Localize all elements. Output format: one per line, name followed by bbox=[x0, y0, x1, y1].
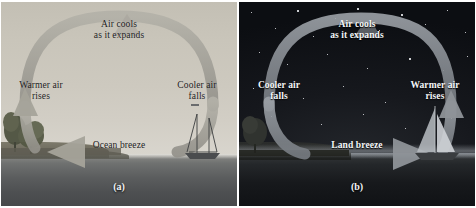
panel-night: Air cools as it expands Cooler air falls… bbox=[239, 2, 475, 206]
day-label-air-cools: Air cools as it expands bbox=[44, 19, 194, 40]
panel-night-caption: (b) bbox=[351, 181, 363, 192]
night-label-line2: as it expands bbox=[282, 30, 432, 41]
day-label-ocean-breeze: Ocean breeze bbox=[59, 140, 179, 151]
day-label-right-line1: Cooler air bbox=[161, 80, 233, 91]
panel-day-caption: (a) bbox=[113, 181, 125, 192]
day-label-line1: Air cools bbox=[44, 19, 194, 30]
day-label-line2: as it expands bbox=[44, 30, 194, 41]
night-label-line1: Air cools bbox=[282, 19, 432, 30]
day-label-left-line2: rises bbox=[5, 91, 77, 102]
day-label-left-line1: Warmer air bbox=[5, 80, 77, 91]
night-label-right-line1: Warmer air bbox=[399, 80, 471, 91]
night-label-land-breeze: Land breeze bbox=[297, 140, 417, 151]
night-label-cooler-air-falls: Cooler air falls bbox=[243, 80, 315, 101]
sea-breeze-land-breeze-figure: Air cools as it expands Warmer air rises… bbox=[0, 0, 476, 208]
night-label-right-line2: rises bbox=[399, 91, 471, 102]
night-label-air-cools: Air cools as it expands bbox=[282, 19, 432, 40]
night-label-left-line2: falls bbox=[243, 91, 315, 102]
night-label-left-line1: Cooler air bbox=[243, 80, 315, 91]
day-label-cooler-air-falls: Cooler air falls bbox=[161, 80, 233, 101]
night-label-warmer-air-rises: Warmer air rises bbox=[399, 80, 471, 101]
day-label-right-line2: falls bbox=[161, 91, 233, 102]
panel-day: Air cools as it expands Warmer air rises… bbox=[1, 2, 237, 206]
day-label-warmer-air-rises: Warmer air rises bbox=[5, 80, 77, 101]
